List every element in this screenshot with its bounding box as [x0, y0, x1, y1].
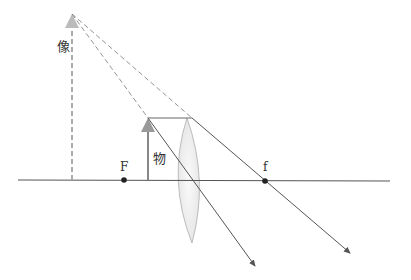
virtual-ray-2: [72, 14, 192, 118]
image-label: 像: [57, 36, 70, 55]
center-ray: [148, 118, 255, 266]
refracted-ray: [192, 118, 350, 253]
focus-point-left: [121, 177, 127, 183]
focus-right-label: f: [263, 160, 267, 174]
principal-axis: [18, 180, 390, 181]
ray-diagram: 像 物 F f: [0, 0, 411, 280]
focus-left-label: F: [120, 160, 128, 174]
virtual-ray-1: [72, 14, 148, 118]
object-label: 物: [153, 148, 166, 167]
focus-point-right: [262, 178, 268, 184]
